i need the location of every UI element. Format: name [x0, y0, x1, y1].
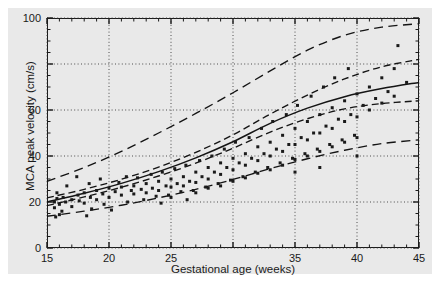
data-point [207, 166, 210, 169]
data-point [53, 206, 56, 209]
data-point [210, 155, 213, 158]
data-point [405, 81, 408, 84]
data-point [312, 132, 315, 135]
data-point [142, 198, 145, 201]
data-point [396, 44, 399, 47]
data-point [322, 86, 325, 89]
data-point [374, 97, 377, 100]
data-point [145, 191, 148, 194]
data-point [225, 166, 228, 169]
data-point [78, 199, 81, 202]
data-point [285, 113, 288, 116]
data-point [306, 155, 309, 158]
data-point [55, 197, 58, 200]
data-point [281, 134, 284, 137]
data-point [281, 164, 284, 167]
data-point [296, 104, 299, 107]
data-point [176, 182, 179, 185]
data-point [55, 191, 58, 194]
data-point [194, 171, 197, 174]
data-point [62, 196, 65, 199]
data-point [70, 205, 73, 208]
figure-panel: 0204060100 152025354045 Gestational age … [8, 8, 432, 274]
data-point [294, 143, 297, 146]
data-point [287, 143, 290, 146]
plot-area: 0204060100 152025354045 [47, 18, 419, 248]
data-point [393, 67, 396, 70]
chart-canvas [47, 18, 419, 248]
data-point [155, 195, 158, 198]
data-point [263, 152, 266, 155]
data-point [157, 189, 160, 192]
data-point [136, 176, 139, 179]
data-point [110, 209, 113, 212]
data-point [89, 196, 92, 199]
data-point [145, 182, 148, 185]
data-point [281, 150, 284, 153]
data-point [182, 175, 185, 178]
data-point [356, 115, 359, 118]
data-point [95, 189, 98, 192]
data-point [219, 161, 222, 164]
data-point [157, 180, 160, 183]
data-point [331, 106, 334, 109]
y-axis-title: MCA peak velocity (cm/s) [24, 41, 36, 211]
data-point [294, 158, 297, 161]
data-point [248, 136, 251, 139]
data-point [318, 150, 321, 153]
data-point [356, 92, 359, 95]
data-point [90, 207, 93, 210]
data-point [132, 184, 135, 187]
data-point [194, 191, 197, 194]
data-point [275, 148, 278, 151]
data-point [85, 214, 88, 217]
data-point [300, 136, 303, 139]
data-point [347, 67, 350, 70]
data-point [83, 191, 86, 194]
data-point [54, 215, 57, 218]
data-point [232, 157, 235, 160]
data-point [343, 99, 346, 102]
data-point [170, 186, 173, 189]
data-point [151, 187, 154, 190]
data-point [194, 181, 197, 184]
data-point [188, 180, 191, 183]
data-point [244, 152, 247, 155]
data-point [318, 132, 321, 135]
data-point [306, 138, 309, 141]
data-point [337, 118, 340, 121]
data-point [232, 168, 235, 171]
data-point [173, 167, 176, 170]
data-point [256, 145, 259, 148]
data-point [343, 120, 346, 123]
data-point [310, 95, 313, 98]
data-point [356, 155, 359, 158]
data-point [380, 102, 383, 105]
data-point [108, 187, 111, 190]
data-point [182, 184, 185, 187]
data-point [256, 172, 259, 175]
data-point [130, 189, 133, 192]
data-point [108, 196, 111, 199]
data-point [179, 190, 182, 193]
y-tick-label: 100 [23, 12, 41, 24]
data-point [53, 201, 56, 204]
data-point [64, 201, 67, 204]
curve [47, 101, 419, 206]
data-point [58, 213, 61, 216]
data-point [244, 176, 247, 179]
data-point [161, 171, 164, 174]
data-point [75, 175, 78, 178]
data-point [198, 159, 201, 162]
data-point [349, 113, 352, 116]
data-point [60, 210, 63, 213]
data-point [318, 113, 321, 116]
data-point [219, 173, 222, 176]
data-point [88, 182, 91, 185]
data-point [99, 178, 102, 181]
data-point [207, 178, 210, 181]
data-point [269, 155, 272, 158]
data-point [77, 194, 80, 197]
data-point [333, 76, 336, 79]
data-point [219, 184, 222, 187]
